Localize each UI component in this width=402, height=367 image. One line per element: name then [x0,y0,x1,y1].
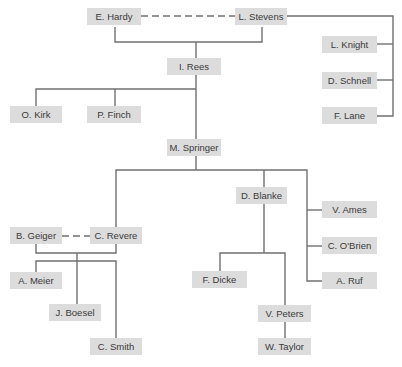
node-l-knight: L. Knight [322,36,377,53]
node-v-ames: V. Ames [322,201,377,218]
node-a-ruf: A. Ruf [322,272,377,289]
node-j-boesel: J. Boesel [49,304,101,321]
node-m-springer: M. Springer [167,139,221,156]
node-l-stevens: L. Stevens [235,8,287,25]
link-rees-kirk [36,89,196,106]
node-c-obrien: C. O'Brien [322,237,377,254]
node-c-smith: C. Smith [90,338,142,355]
node-a-meier: A. Meier [10,272,62,289]
node-w-taylor: W. Taylor [258,338,311,355]
node-p-finch: P. Finch [87,106,141,123]
node-d-blanke: D. Blanke [236,187,287,204]
link-hardy-stevens-join [115,27,262,42]
link-stevens-lane [287,16,393,116]
node-v-peters: V. Peters [258,305,311,322]
node-d-schnell: D. Schnell [322,72,377,89]
link-geiger-revere-join [36,244,116,253]
node-o-kirk: O. Kirk [10,106,62,123]
node-f-dicke: F. Dicke [192,271,247,288]
node-e-hardy: E. Hardy [87,8,141,25]
node-b-geiger: B. Geiger [10,227,62,244]
node-i-rees: I. Rees [167,58,221,75]
node-f-lane: F. Lane [322,107,377,124]
link-springer-branch [116,170,322,281]
org-chart: E. Hardy L. Stevens L. Knight D. Schnell… [0,0,402,367]
node-c-revere: C. Revere [90,227,142,244]
